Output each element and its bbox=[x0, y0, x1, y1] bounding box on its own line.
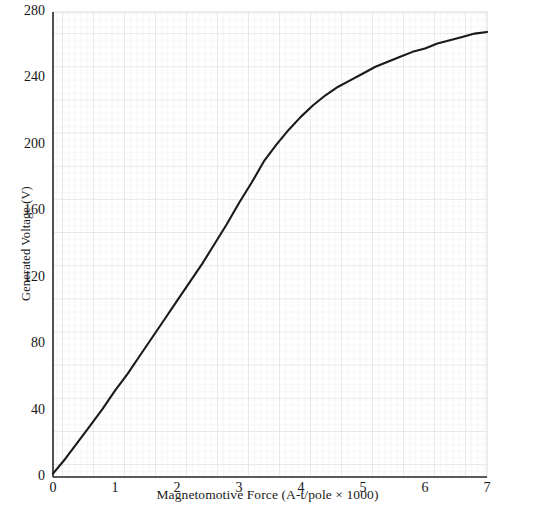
y-tick-label: 120 bbox=[5, 269, 45, 285]
y-tick-label: 160 bbox=[5, 202, 45, 218]
x-tick-label: 0 bbox=[33, 480, 73, 496]
x-tick-label: 5 bbox=[343, 480, 383, 496]
y-axis-label: Generated Voltage (V) bbox=[19, 164, 34, 324]
x-tick-label: 3 bbox=[219, 480, 259, 496]
x-tick-label: 7 bbox=[467, 480, 507, 496]
x-axis-label: Magnetomotive Force (A-t/pole × 1000) bbox=[0, 487, 535, 503]
y-tick-label: 80 bbox=[5, 335, 45, 351]
x-tick-label: 6 bbox=[405, 480, 445, 496]
chart-canvas bbox=[0, 0, 535, 510]
x-tick-label: 2 bbox=[157, 480, 197, 496]
magnetization-curve-chart: Generated Voltage (V) Magnetomotive Forc… bbox=[0, 0, 535, 510]
y-tick-label: 240 bbox=[5, 69, 45, 85]
x-tick-label: 4 bbox=[281, 480, 321, 496]
y-tick-label: 40 bbox=[5, 402, 45, 418]
y-tick-label: 200 bbox=[5, 136, 45, 152]
x-tick-label: 1 bbox=[95, 480, 135, 496]
plot-grid bbox=[53, 12, 487, 477]
y-tick-label: 280 bbox=[5, 3, 45, 19]
